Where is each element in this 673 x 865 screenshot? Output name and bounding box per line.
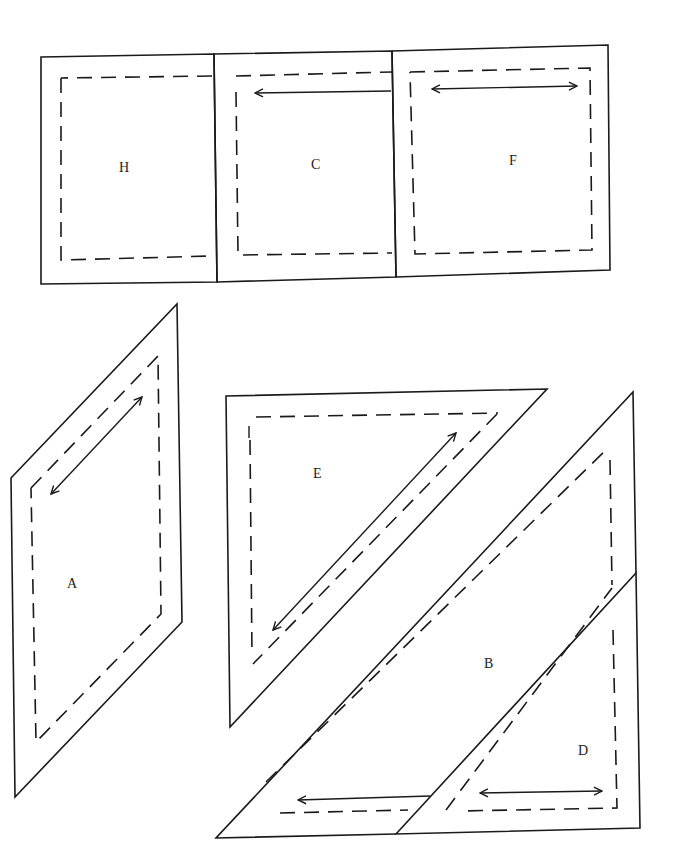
seam-line bbox=[236, 92, 392, 255]
seam-line bbox=[280, 810, 408, 813]
cut-line bbox=[396, 573, 640, 834]
piece-e: E bbox=[226, 389, 547, 727]
piece-label-h: H bbox=[119, 160, 129, 175]
seam-line bbox=[61, 76, 212, 78]
piece-label-e: E bbox=[313, 466, 322, 481]
cut-line bbox=[11, 304, 182, 797]
seam-line bbox=[266, 447, 609, 782]
piece-label-a: A bbox=[67, 576, 78, 591]
piece-d: D bbox=[396, 573, 640, 834]
piece-label-b: B bbox=[484, 656, 493, 671]
quilt-pattern-diagram: H C F A E B bbox=[0, 0, 673, 865]
seam-line bbox=[31, 356, 161, 742]
piece-c: C bbox=[214, 51, 396, 282]
piece-label-c: C bbox=[311, 157, 320, 172]
grain-arrow bbox=[273, 433, 456, 630]
piece-f: F bbox=[392, 45, 610, 277]
seam-line bbox=[610, 460, 612, 585]
grain-arrow bbox=[480, 791, 602, 793]
seam-line bbox=[410, 68, 592, 254]
seam-line bbox=[236, 72, 392, 76]
seam-line bbox=[61, 78, 212, 260]
grain-arrow bbox=[298, 796, 430, 800]
cut-line bbox=[216, 392, 636, 838]
piece-b: B bbox=[216, 392, 636, 838]
piece-label-d: D bbox=[578, 743, 588, 758]
grain-arrow bbox=[255, 91, 391, 93]
piece-label-f: F bbox=[509, 153, 517, 168]
cut-line bbox=[214, 51, 396, 282]
grain-arrow bbox=[51, 397, 142, 494]
seam-line bbox=[256, 413, 498, 417]
cut-line bbox=[226, 389, 547, 727]
cut-line bbox=[392, 45, 610, 277]
grain-arrow bbox=[432, 86, 577, 89]
piece-h: H bbox=[41, 54, 217, 284]
seam-line bbox=[253, 414, 497, 664]
piece-a: A bbox=[11, 304, 182, 797]
seam-line bbox=[446, 588, 612, 810]
seam-line bbox=[250, 440, 252, 656]
